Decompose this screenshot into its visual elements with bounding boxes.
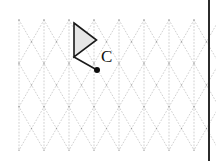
grid-node-dot bbox=[168, 106, 169, 107]
grid-node-dot bbox=[93, 19, 94, 20]
grid-node-dot bbox=[131, 84, 132, 85]
geometry-figure: C bbox=[0, 0, 216, 161]
grid-node-dot bbox=[206, 128, 207, 129]
grid-node-dot bbox=[131, 41, 132, 42]
grid-diagonal-up-line bbox=[0, 20, 19, 150]
grid-node-dot bbox=[156, 128, 157, 129]
grid-node-dot bbox=[93, 150, 94, 151]
grid-node-dot bbox=[43, 19, 44, 20]
grid-node-dot bbox=[43, 150, 44, 151]
grid-node-dot bbox=[143, 150, 144, 151]
grid-node-dot bbox=[18, 19, 19, 20]
shape-layer bbox=[74, 23, 97, 57]
grid-diagonal-down-line bbox=[0, 20, 44, 150]
grid-node-dot bbox=[193, 19, 194, 20]
grid-node-dot bbox=[118, 63, 119, 64]
grid-node-dot bbox=[118, 150, 119, 151]
grid-node-dot bbox=[168, 63, 169, 64]
grid-node-dot bbox=[56, 84, 57, 85]
grid-node-dot bbox=[93, 63, 94, 64]
grid-node-dot bbox=[118, 106, 119, 107]
grid-node-dot bbox=[106, 41, 107, 42]
grid-node-dot bbox=[68, 63, 69, 64]
grid-node-dot bbox=[43, 63, 44, 64]
grid-node-dot bbox=[93, 106, 94, 107]
grid-node-dot bbox=[81, 128, 82, 129]
grid-node-dot bbox=[43, 106, 44, 107]
grid-node-dot bbox=[68, 19, 69, 20]
dot-grid-layer bbox=[0, 19, 216, 151]
grid-node-dot bbox=[181, 128, 182, 129]
grid-node-dot bbox=[193, 150, 194, 151]
grid-diagonal-down-line bbox=[0, 20, 19, 150]
grid-node-dot bbox=[18, 150, 19, 151]
grid-node-dot bbox=[168, 150, 169, 151]
grid-node-dot bbox=[156, 84, 157, 85]
grid-node-dot bbox=[193, 106, 194, 107]
grid-node-dot bbox=[156, 41, 157, 42]
grid-node-dot bbox=[18, 63, 19, 64]
grid-node-dot bbox=[168, 19, 169, 20]
grid-node-dot bbox=[131, 128, 132, 129]
screenshot-root: C bbox=[0, 0, 216, 161]
grid-node-dot bbox=[81, 84, 82, 85]
grid-node-dot bbox=[56, 128, 57, 129]
grid-node-dot bbox=[206, 41, 207, 42]
grid-node-dot bbox=[181, 41, 182, 42]
center-point-label: C bbox=[101, 47, 112, 66]
grid-node-dot bbox=[106, 128, 107, 129]
grid-node-dot bbox=[31, 84, 32, 85]
grid-node-dot bbox=[193, 63, 194, 64]
grid-node-dot bbox=[181, 84, 182, 85]
grid-diagonal-up-line bbox=[0, 20, 69, 150]
grid-node-dot bbox=[118, 19, 119, 20]
grid-node-dot bbox=[31, 128, 32, 129]
grid-node-dot bbox=[143, 106, 144, 107]
grid-node-dot bbox=[106, 84, 107, 85]
grid-node-dot bbox=[206, 84, 207, 85]
grid-node-dot bbox=[143, 63, 144, 64]
center-point-dot[interactable] bbox=[94, 67, 100, 73]
grid-diagonal-up-line bbox=[0, 20, 44, 150]
grid-node-dot bbox=[56, 41, 57, 42]
grid-node-dot bbox=[18, 106, 19, 107]
grid-node-dot bbox=[68, 106, 69, 107]
grid-diagonal-down-line bbox=[0, 20, 69, 150]
center-point-layer: C bbox=[94, 47, 112, 73]
grid-node-dot bbox=[31, 41, 32, 42]
grid-node-dot bbox=[143, 19, 144, 20]
grid-node-dot bbox=[68, 150, 69, 151]
triangle-shape[interactable] bbox=[74, 23, 97, 57]
